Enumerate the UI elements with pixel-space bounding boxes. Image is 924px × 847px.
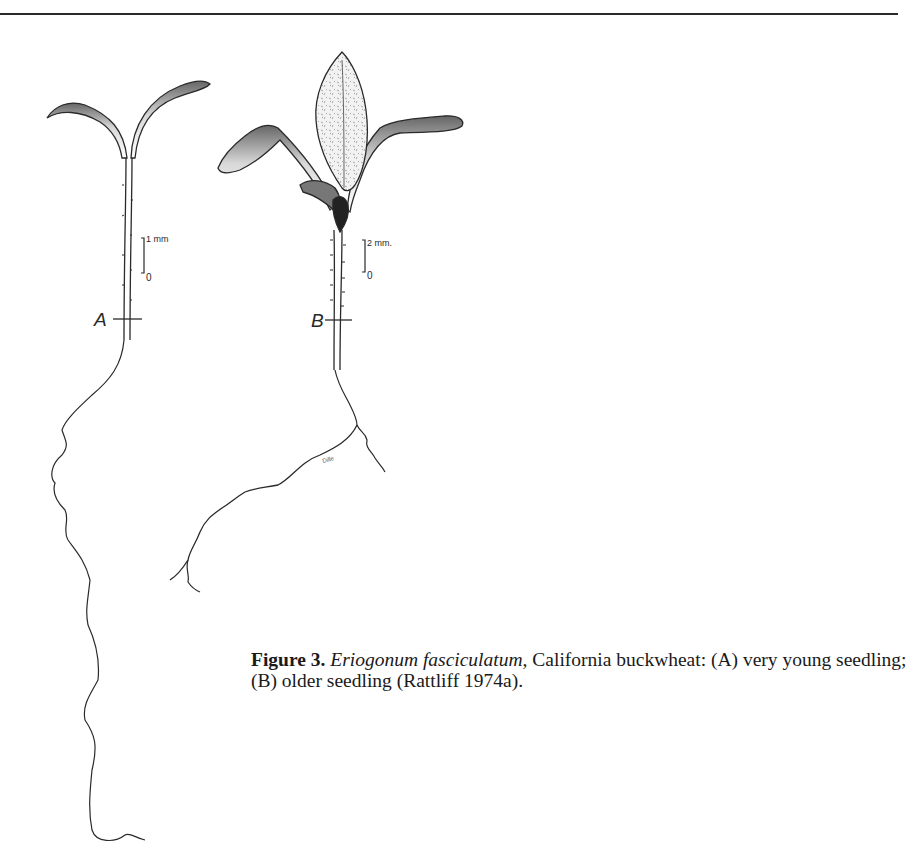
scale-b-top: 2 mm. bbox=[367, 238, 392, 248]
scale-a-bottom: 0 bbox=[146, 272, 152, 283]
scale-b-bottom: 0 bbox=[367, 270, 373, 281]
seedling-a bbox=[47, 81, 210, 840]
artist-signature: Dille bbox=[322, 455, 335, 464]
figure-number: Figure 3. bbox=[251, 649, 325, 670]
scale-a-top: 1 mm bbox=[146, 234, 169, 244]
seedling-illustration: 1 mm 0 A 2 mm. 0 B Dille bbox=[0, 0, 924, 847]
species-name: Eriogonum fasciculatum, bbox=[330, 649, 527, 670]
scale-bar-b bbox=[362, 240, 365, 272]
panel-label-b: B bbox=[311, 310, 324, 331]
figure-caption: Figure 3. Eriogonum fasciculatum, Califo… bbox=[251, 649, 921, 691]
panel-label-a: A bbox=[93, 309, 107, 330]
scale-bar-a bbox=[141, 238, 144, 273]
